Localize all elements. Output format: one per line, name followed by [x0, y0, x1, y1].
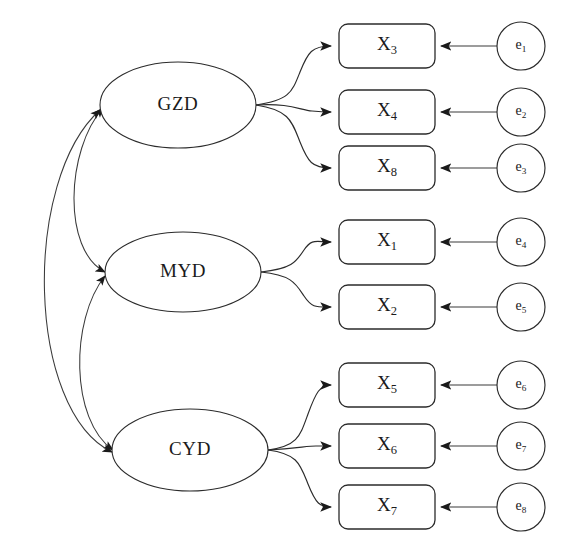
loading-arrow-gzd-to-x8	[256, 105, 331, 168]
loading-arrow-myd-to-x1	[261, 241, 331, 272]
indicator-label-base: X	[377, 229, 391, 250]
indicator-x4[interactable]: X4	[339, 90, 435, 134]
sem-path-diagram: GZDMYDCYD X3X4X8X1X2X5X6X7 e1e2e3e4e5e6e…	[0, 0, 567, 548]
error-term-e3[interactable]: e3	[497, 144, 545, 192]
indicator-x5[interactable]: X5	[339, 363, 435, 407]
error-label-subscript: 8	[522, 505, 527, 515]
latent-label: GZD	[158, 93, 199, 114]
correlation-arrow-gzd-myd	[74, 108, 105, 272]
indicator-label-base: X	[377, 494, 391, 515]
indicator-label-base: X	[377, 433, 391, 454]
indicator-label-base: X	[377, 33, 391, 54]
diagram-canvas: GZDMYDCYD X3X4X8X1X2X5X6X7 e1e2e3e4e5e6e…	[0, 0, 567, 548]
error-label-subscript: 5	[522, 305, 527, 315]
error-term-e1[interactable]: e1	[497, 22, 545, 70]
loading-arrow-myd-to-x2	[261, 272, 331, 307]
latent-variable-gzd[interactable]: GZD	[100, 62, 256, 148]
loading-arrow-cyd-to-x5	[268, 385, 331, 450]
indicator-label-subscript: 6	[391, 443, 397, 457]
indicator-label-subscript: 2	[391, 304, 397, 318]
indicator-x2[interactable]: X2	[339, 285, 435, 329]
indicator-label-subscript: 3	[391, 43, 397, 57]
indicator-label-subscript: 8	[391, 165, 397, 179]
error-term-e2[interactable]: e2	[497, 88, 545, 136]
loading-arrow-cyd-to-x7	[268, 450, 331, 507]
indicator-boxes-group: X3X4X8X1X2X5X6X7	[339, 24, 435, 529]
indicator-x1[interactable]: X1	[339, 220, 435, 264]
correlation-arrow-myd-cyd	[80, 276, 113, 450]
indicator-label-subscript: 4	[391, 109, 398, 123]
latent-variable-cyd[interactable]: CYD	[112, 409, 268, 491]
indicator-x6[interactable]: X6	[339, 424, 435, 468]
indicator-label-subscript: 1	[391, 239, 397, 253]
indicator-x8[interactable]: X8	[339, 146, 435, 190]
indicator-label-base: X	[377, 155, 391, 176]
error-label-subscript: 6	[522, 383, 527, 393]
indicator-label-subscript: 7	[391, 504, 397, 518]
indicator-label-base: X	[377, 99, 391, 120]
indicator-label-base: X	[377, 294, 391, 315]
error-term-e6[interactable]: e6	[497, 361, 545, 409]
latent-variable-myd[interactable]: MYD	[105, 232, 261, 312]
error-arrows-group	[441, 46, 497, 507]
error-label-subscript: 7	[522, 444, 527, 454]
factor-loading-arrows-group	[256, 46, 331, 507]
error-label-subscript: 4	[522, 240, 527, 250]
latent-label: MYD	[160, 260, 206, 281]
indicator-x7[interactable]: X7	[339, 485, 435, 529]
error-label-subscript: 1	[522, 44, 527, 54]
loading-arrow-gzd-to-x3	[256, 46, 331, 105]
error-term-e8[interactable]: e8	[497, 483, 545, 531]
error-term-e5[interactable]: e5	[497, 283, 545, 331]
indicator-x3[interactable]: X3	[339, 24, 435, 68]
latent-label: CYD	[169, 438, 211, 459]
error-term-e7[interactable]: e7	[497, 422, 545, 470]
error-term-e4[interactable]: e4	[497, 218, 545, 266]
latent-variables-group: GZDMYDCYD	[100, 62, 268, 491]
error-circles-group: e1e2e3e4e5e6e7e8	[497, 22, 545, 531]
indicator-label-subscript: 5	[391, 382, 397, 396]
indicator-label-base: X	[377, 372, 391, 393]
error-label-subscript: 2	[522, 110, 527, 120]
correlation-arrows-group	[44, 108, 113, 452]
loading-arrow-gzd-to-x4	[256, 105, 331, 112]
error-label-subscript: 3	[522, 166, 527, 176]
